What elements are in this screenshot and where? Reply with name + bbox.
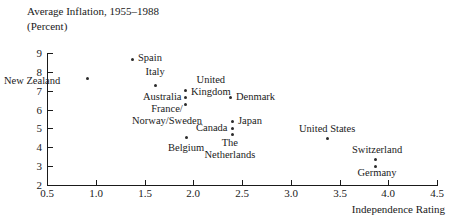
- x-tick-label: 2.0: [175, 188, 211, 199]
- data-point-label: Spain: [138, 52, 162, 64]
- x-tick-label: 4.0: [370, 188, 406, 199]
- data-point[interactable]: [154, 84, 157, 87]
- data-point-label-line: Denmark: [236, 91, 275, 103]
- data-point-label-line: Kingdom: [191, 86, 231, 98]
- data-point-label: Germany: [358, 167, 397, 179]
- data-point[interactable]: [86, 77, 89, 80]
- data-point-label-line: Australia: [143, 91, 182, 103]
- data-point[interactable]: [326, 137, 329, 140]
- y-tick-mark: [48, 166, 53, 167]
- y-tick-mark: [48, 91, 53, 92]
- x-tick-label: 1.0: [78, 188, 114, 199]
- data-point-label: United States: [299, 123, 355, 135]
- data-point-label: UnitedKingdom: [191, 74, 231, 97]
- data-point-label: Belgium: [168, 142, 204, 154]
- x-tick-mark: [437, 180, 438, 185]
- data-point-label: Switzerland: [352, 144, 402, 156]
- data-point[interactable]: [185, 136, 188, 139]
- data-point-label-line: New Zealand: [4, 75, 60, 87]
- data-point-label: France/Norway/Sweden: [132, 103, 202, 126]
- inflation-independence-scatter-chart: Average Inflation, 1955–1988 (Percent) 9…: [0, 0, 455, 221]
- data-point-label-line: Germany: [358, 167, 397, 179]
- y-tick-label: 6: [24, 105, 42, 116]
- x-tick-label: 4.5: [419, 188, 455, 199]
- x-tick-label: 3.5: [322, 188, 358, 199]
- y-tick-label: 3: [24, 161, 42, 172]
- y-tick-label: 7: [24, 86, 42, 97]
- data-point[interactable]: [374, 158, 377, 161]
- data-point-label-line: Spain: [138, 52, 162, 64]
- x-tick-mark: [145, 180, 146, 185]
- x-tick-mark: [47, 180, 48, 185]
- data-point-label: New Zealand: [4, 75, 60, 87]
- data-point-label-line: Belgium: [168, 142, 204, 154]
- data-point[interactable]: [231, 133, 234, 136]
- x-axis-line: [47, 185, 438, 186]
- y-tick-mark: [48, 53, 53, 54]
- data-point-label-line: United: [191, 74, 231, 86]
- y-tick-mark: [48, 110, 53, 111]
- data-point-label-line: Canada: [196, 122, 228, 134]
- data-point[interactable]: [231, 120, 234, 123]
- x-tick-mark: [96, 180, 97, 185]
- data-point-label-line: Switzerland: [352, 144, 402, 156]
- data-point[interactable]: [184, 96, 187, 99]
- x-tick-label: 3.0: [273, 188, 309, 199]
- data-point-label-line: The: [205, 137, 256, 149]
- y-tick-mark: [48, 185, 53, 186]
- data-point-label-line: United States: [299, 123, 355, 135]
- x-tick-label: 1.5: [127, 188, 163, 199]
- data-point-label: TheNetherlands: [205, 137, 256, 160]
- data-point-label: Japan: [238, 115, 262, 127]
- x-tick-mark: [388, 180, 389, 185]
- data-point[interactable]: [229, 96, 232, 99]
- data-point-label-line: Japan: [238, 115, 262, 127]
- data-point-label-line: France/: [132, 103, 202, 115]
- y-tick-mark: [48, 147, 53, 148]
- x-tick-mark: [291, 180, 292, 185]
- data-point-label-line: Norway/Sweden: [132, 115, 202, 127]
- data-point-label: Canada: [196, 122, 228, 134]
- x-tick-mark: [193, 180, 194, 185]
- data-point-label-line: Italy: [146, 66, 165, 78]
- y-tick-mark: [48, 128, 53, 129]
- x-tick-mark: [242, 180, 243, 185]
- x-tick-label: 2.5: [224, 188, 260, 199]
- data-point-label-line: Netherlands: [205, 149, 256, 161]
- data-point[interactable]: [184, 89, 187, 92]
- data-point-label: Denmark: [236, 91, 275, 103]
- plot-area: 98765432 0.51.01.52.02.53.03.54.04.5 New…: [0, 0, 455, 221]
- y-tick-mark: [48, 72, 53, 73]
- x-axis-title: Independence Rating: [352, 203, 445, 215]
- data-point[interactable]: [231, 127, 234, 130]
- data-point-label: Italy: [146, 66, 165, 78]
- y-tick-label: 9: [24, 48, 42, 59]
- x-tick-label: 0.5: [29, 188, 65, 199]
- x-tick-mark: [340, 180, 341, 185]
- data-point-label: Australia: [143, 91, 182, 103]
- y-tick-label: 5: [24, 123, 42, 134]
- y-tick-label: 4: [24, 142, 42, 153]
- data-point[interactable]: [131, 58, 134, 61]
